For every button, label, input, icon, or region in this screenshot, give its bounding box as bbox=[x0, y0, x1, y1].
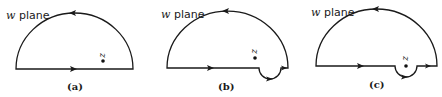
caption-c: (c) bbox=[369, 79, 385, 90]
contour-b bbox=[167, 11, 288, 79]
contour-figure: w plane z (a) w plane z (b) w plane z (c… bbox=[0, 0, 442, 97]
plane-label-a: w plane bbox=[6, 9, 50, 22]
caption-a: (a) bbox=[67, 81, 83, 92]
point-label-z-a: z bbox=[98, 52, 108, 58]
arrow-right-icon bbox=[401, 75, 408, 80]
caption-b: (b) bbox=[218, 81, 234, 92]
point-label-z-b: z bbox=[250, 48, 260, 54]
point-z-a bbox=[101, 59, 105, 63]
contour-c bbox=[316, 9, 437, 77]
panel-a: w plane z (a) bbox=[6, 9, 133, 92]
point-label-z-c: z bbox=[401, 55, 411, 61]
panel-b: w plane z (b) bbox=[161, 8, 288, 92]
panel-c: w plane z (c) bbox=[311, 6, 437, 90]
plane-label-c: w plane bbox=[311, 6, 355, 19]
point-z-c bbox=[404, 64, 408, 68]
point-z-b bbox=[253, 56, 257, 60]
plane-label-b: w plane bbox=[161, 8, 205, 21]
